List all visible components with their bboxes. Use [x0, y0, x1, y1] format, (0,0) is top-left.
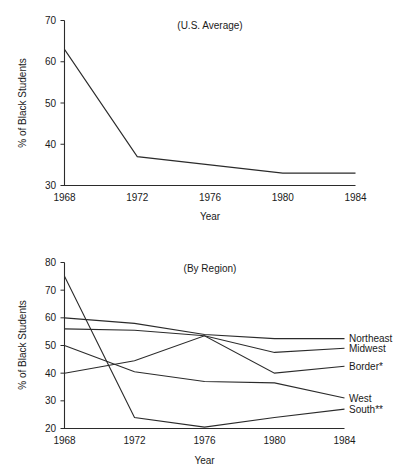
series-label-south: South**	[349, 404, 383, 415]
series-label-border: Border*	[349, 361, 383, 372]
bottom-panel-ytick-30: 30	[45, 395, 57, 406]
top-panel-ytick-70: 70	[45, 15, 57, 26]
top-panel-xaxis-title: Year	[200, 211, 221, 222]
bottom-panel: 20 30 40 50 60 70 80 1968 1972 1976 1980…	[17, 257, 393, 466]
bottom-panel-xtick-1972: 1972	[123, 435, 146, 446]
series-line-border	[65, 336, 345, 373]
series-label-midwest: Midwest	[349, 343, 386, 354]
two-panel-line-chart: 30 40 50 60 70 1968 1972 1976 1980 1984 …	[0, 0, 412, 476]
top-panel-xtick-1976: 1976	[199, 192, 222, 203]
top-panel: 30 40 50 60 70 1968 1972 1976 1980 1984 …	[17, 15, 367, 222]
top-panel-xtick-1972: 1972	[126, 192, 149, 203]
bottom-panel-title: (By Region)	[184, 263, 237, 274]
bottom-panel-yaxis-title: % of Black Students	[17, 300, 28, 390]
bottom-panel-xtick-1976: 1976	[193, 435, 216, 446]
series-line-south	[65, 276, 345, 427]
bottom-panel-xtick-1980: 1980	[263, 435, 286, 446]
top-panel-yaxis-title: % of Black Students	[17, 58, 28, 148]
bottom-panel-ytick-20: 20	[45, 423, 57, 434]
top-panel-ytick-30: 30	[45, 180, 57, 191]
bottom-panel-axes	[65, 263, 345, 429]
top-panel-xtick-1980: 1980	[272, 192, 295, 203]
top-panel-xtick-1968: 1968	[53, 192, 76, 203]
bottom-panel-ytick-70: 70	[45, 285, 57, 296]
top-panel-ytick-60: 60	[45, 56, 57, 67]
series-line-us-average	[65, 49, 356, 173]
bottom-panel-ytick-80: 80	[45, 257, 57, 268]
top-panel-title: (U.S. Average)	[177, 20, 242, 31]
figure-container: 30 40 50 60 70 1968 1972 1976 1980 1984 …	[0, 0, 412, 476]
top-panel-ytick-40: 40	[45, 139, 57, 150]
series-label-west: West	[349, 393, 372, 404]
series-line-west	[65, 346, 345, 399]
bottom-panel-ytick-50: 50	[45, 340, 57, 351]
bottom-panel-ytick-60: 60	[45, 312, 57, 323]
top-panel-y-ticks	[61, 21, 65, 186]
bottom-panel-xtick-1968: 1968	[53, 435, 76, 446]
bottom-panel-xtick-1984: 1984	[333, 435, 356, 446]
bottom-panel-y-ticks	[61, 263, 65, 429]
bottom-panel-xaxis-title: Year	[194, 455, 215, 466]
top-panel-axes	[65, 21, 356, 186]
top-panel-ytick-50: 50	[45, 98, 57, 109]
series-line-midwest	[65, 329, 345, 353]
top-panel-xtick-1984: 1984	[344, 192, 367, 203]
bottom-panel-ytick-40: 40	[45, 368, 57, 379]
